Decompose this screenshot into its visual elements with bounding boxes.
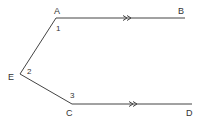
- label-b: B: [178, 6, 184, 16]
- segment-ec: [20, 74, 72, 104]
- segment-ae: [20, 18, 56, 74]
- angle-1: 1: [56, 24, 61, 33]
- label-e: E: [8, 72, 14, 82]
- parallel-lines-diagram: A B 1 E 2 3 C D: [0, 0, 199, 123]
- label-d: D: [186, 108, 193, 118]
- angle-2: 2: [27, 67, 32, 76]
- label-c: C: [66, 108, 73, 118]
- angle-3: 3: [70, 91, 75, 100]
- label-a: A: [54, 6, 60, 16]
